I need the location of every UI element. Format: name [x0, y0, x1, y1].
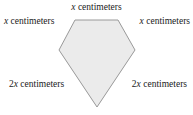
label-bottom-left-side: 2x centimeters — [9, 80, 64, 90]
label-left-side: x centimeters — [4, 17, 54, 27]
geometry-figure: x centimeters x centimeters x centimeter… — [0, 0, 193, 115]
label-left-unit: centimeters — [8, 16, 54, 26]
label-bottom-right-unit: centimeters — [141, 79, 187, 89]
label-bottom-left-unit: centimeters — [18, 79, 64, 89]
label-right-unit: centimeters — [144, 16, 190, 26]
label-right-side: x centimeters — [140, 17, 190, 27]
pentagon-outline — [59, 20, 135, 107]
label-top-unit: centimeters — [76, 2, 122, 12]
label-top-side: x centimeters — [71, 3, 121, 13]
label-bottom-right-side: 2x centimeters — [132, 80, 187, 90]
